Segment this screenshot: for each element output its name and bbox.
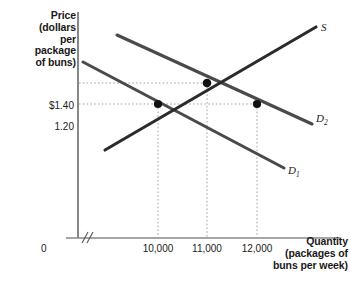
curve-d1: [83, 62, 284, 168]
curve-label-d1-subscript: 1: [296, 170, 300, 179]
origin-label: 0: [41, 243, 47, 254]
point-10000-120: [154, 100, 162, 108]
curve-label-s: S: [321, 21, 327, 33]
curve-label-d2-subscript: 2: [324, 118, 328, 127]
curve-label-d2: D2: [316, 112, 328, 128]
chart-canvas: Price (dollars per package of buns) $1.4…: [0, 0, 350, 284]
y-axis-title: Price (dollars per package of buns): [8, 10, 76, 69]
curve-label-d1-text: D: [288, 164, 296, 176]
x-tick-10000: 10,000: [143, 243, 174, 254]
curve-label-d2-text: D: [316, 112, 324, 124]
curve-label-d1: D1: [288, 164, 300, 180]
x-tick-11000: 11,000: [192, 243, 222, 254]
point-12000-120: [253, 100, 261, 108]
x-axis-title: Quantity (packages of buns per week): [258, 236, 348, 271]
curve-d2: [117, 35, 312, 124]
point-11000-140: [203, 79, 212, 88]
